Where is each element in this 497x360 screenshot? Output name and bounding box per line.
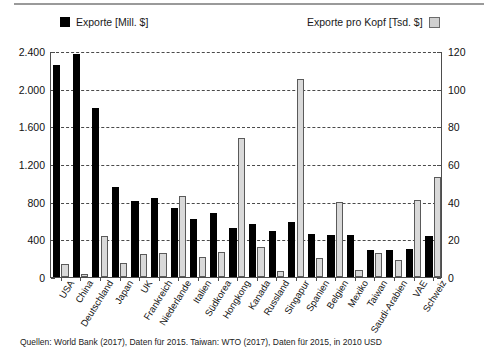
y-axis-right-tick-label: 120 [448, 46, 466, 58]
x-axis-category-label-text: UK [138, 278, 154, 295]
y-axis-left-tick-label: 2.000 [19, 84, 45, 96]
legend-label-exporte: Exporte [Mill. $] [76, 16, 148, 28]
export-bar-chart-figure: Exporte [Mill. $] Exporte pro Kopf [Tsd.… [0, 0, 497, 360]
legend-item-exporte-pro-kopf: Exporte pro Kopf [Tsd. $] [307, 16, 440, 28]
y-axis-right-tick-label: 60 [448, 159, 460, 171]
y-axis-left-tick-label: 1.600 [19, 121, 45, 133]
bar-group [227, 52, 247, 277]
bar-group [325, 52, 345, 277]
legend-label-exporte-pro-kopf: Exporte pro Kopf [Tsd. $] [307, 16, 423, 28]
bar-group [286, 52, 306, 277]
y-axis-right-tick-label: 40 [448, 197, 460, 209]
source-note: Quellen: World Bank (2017), Daten für 20… [20, 337, 382, 347]
y-axis-right-tick-label: 20 [448, 234, 460, 246]
top-divider [14, 3, 484, 5]
bar-exporte [92, 108, 99, 277]
legend-swatch-black-square-icon [60, 17, 70, 27]
bar-exporte-pro-kopf [434, 177, 441, 277]
y-axis-right-tick-label: 80 [448, 121, 460, 133]
y-axis-left-tick-label: 1.200 [19, 159, 45, 171]
y-axis-left-tick-label: 800 [27, 197, 45, 209]
legend-item-exporte: Exporte [Mill. $] [60, 16, 148, 28]
y-axis-left-tick-label: 0 [39, 272, 45, 284]
y-axis-left-tick-label: 400 [27, 234, 45, 246]
bar-exporte [151, 198, 158, 277]
bar-group [51, 52, 71, 277]
bar-group [306, 52, 326, 277]
bar-group [149, 52, 169, 277]
bar-group [365, 52, 385, 277]
bar-group [71, 52, 91, 277]
bar-group [345, 52, 365, 277]
bar-exporte [73, 54, 80, 277]
bar-group [384, 52, 404, 277]
bar-exporte [53, 65, 60, 277]
chart-legend: Exporte [Mill. $] Exporte pro Kopf [Tsd.… [0, 14, 497, 36]
bar-group [90, 52, 110, 277]
y-axis-right-tick-label: 100 [448, 84, 466, 96]
legend-swatch-gray-square-icon [429, 17, 440, 28]
y-axis-left-tick-label: 2.400 [19, 46, 45, 58]
